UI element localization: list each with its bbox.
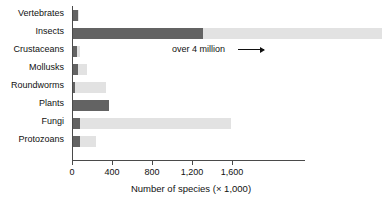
bar-fungi-estimated (73, 118, 231, 129)
x-tick-label-1600: 1,600 (221, 167, 244, 177)
category-label-crustaceans: Crustaceans (13, 45, 64, 54)
category-label-roundworms: Roundworms (11, 81, 64, 90)
category-label-mollusks: Mollusks (29, 63, 64, 72)
x-tick-label-0: 0 (69, 167, 74, 177)
bar-fungi-known (73, 118, 80, 129)
plot-area: 0 400 800 1,200 1,600 (72, 6, 382, 160)
bar-roundworms-known (73, 82, 75, 93)
bar-mollusks-known (73, 64, 78, 75)
bar-roundworms-estimated (73, 82, 106, 93)
annotation-arrow-icon (238, 49, 264, 50)
species-bar-chart: Vertebrates Insects Crustaceans Mollusks… (0, 0, 382, 213)
category-label-plants: Plants (39, 99, 64, 108)
category-axis-labels: Vertebrates Insects Crustaceans Mollusks… (0, 0, 68, 160)
category-label-fungi: Fungi (41, 117, 64, 126)
x-axis-title: Number of species (× 1,000) (0, 183, 382, 194)
x-tick-0 (72, 161, 73, 165)
bar-vertebrates-known (73, 10, 78, 21)
x-tick-400 (112, 161, 113, 165)
x-tick-1600 (232, 161, 233, 165)
x-axis-line (72, 160, 305, 161)
annotation-over-4-million: over 4 million (172, 44, 225, 54)
x-tick-800 (152, 161, 153, 165)
x-tick-label-1200: 1,200 (181, 167, 204, 177)
category-label-protozoans: Protozoans (18, 135, 64, 144)
bar-insects-known (73, 28, 203, 39)
x-tick-1200 (192, 161, 193, 165)
category-label-insects: Insects (35, 27, 64, 36)
x-tick-label-400: 400 (104, 167, 119, 177)
x-tick-label-800: 800 (144, 167, 159, 177)
bar-crustaceans-known (73, 46, 77, 57)
bar-plants-known (73, 100, 109, 111)
category-label-vertebrates: Vertebrates (18, 9, 64, 18)
bar-protozoans-known (73, 136, 80, 147)
